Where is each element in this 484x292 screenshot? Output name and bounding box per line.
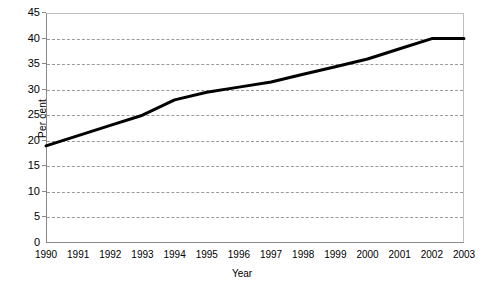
x-axis-title: Year	[0, 268, 484, 279]
gridline	[47, 166, 463, 167]
line-chart: Per cent 051015202530354045 199019911992…	[0, 0, 484, 292]
y-tick-label: 45	[0, 7, 40, 18]
y-tick-mark	[42, 114, 46, 115]
y-tick-label: 40	[0, 33, 40, 44]
gridline	[47, 64, 463, 65]
y-tick-mark	[42, 63, 46, 64]
y-tick-mark	[42, 12, 46, 13]
x-tick-label: 2003	[444, 249, 484, 261]
y-tick-mark	[42, 191, 46, 192]
gridline	[47, 141, 463, 142]
y-tick-mark	[42, 165, 46, 166]
gridline	[47, 217, 463, 218]
y-tick-label: 25	[0, 109, 40, 120]
y-tick-mark	[42, 89, 46, 90]
gridline	[47, 115, 463, 116]
plot-area	[46, 13, 464, 243]
y-tick-mark	[42, 38, 46, 39]
y-tick-label: 10	[0, 186, 40, 197]
y-tick-label: 20	[0, 135, 40, 146]
y-tick-label: 30	[0, 84, 40, 95]
gridline	[47, 90, 463, 91]
y-tick-label: 35	[0, 58, 40, 69]
y-tick-mark	[42, 216, 46, 217]
gridline	[47, 39, 463, 40]
y-tick-mark	[42, 140, 46, 141]
gridline	[47, 192, 463, 193]
y-tick-label: 0	[0, 237, 40, 248]
y-tick-label: 15	[0, 160, 40, 171]
y-tick-label: 5	[0, 211, 40, 222]
